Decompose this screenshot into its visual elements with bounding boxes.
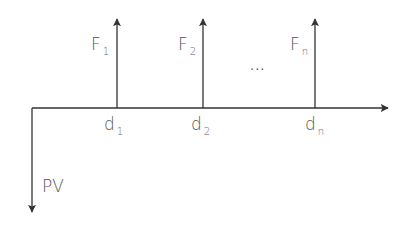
cash-flow-subscript: 1 — [103, 46, 109, 57]
ellipsis-text: ... — [250, 58, 265, 73]
date-label-n: dn — [305, 116, 324, 135]
cash-flow-symbol: F — [290, 34, 300, 54]
date-subscript: 2 — [204, 126, 210, 137]
present-value-label: PV — [42, 178, 64, 195]
date-subscript: n — [318, 126, 324, 137]
cash-flow-symbol: F — [178, 34, 188, 54]
date-label-2: d2 — [191, 116, 210, 135]
cash-flow-symbol: F — [91, 34, 101, 54]
date-symbol: d — [305, 114, 316, 134]
date-label-1: d1 — [104, 116, 123, 135]
date-symbol: d — [104, 114, 115, 134]
cash-flow-label-2: F2 — [178, 36, 196, 55]
cash-flow-label-1: F1 — [91, 36, 109, 55]
date-subscript: 1 — [117, 126, 123, 137]
date-symbol: d — [191, 114, 202, 134]
cash-flow-subscript: n — [302, 46, 308, 57]
cash-flow-subscript: 2 — [190, 46, 196, 57]
cash-flow-label-n: Fn — [290, 36, 308, 55]
